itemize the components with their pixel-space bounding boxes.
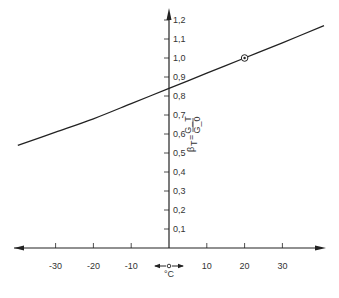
y-tick-label: 0,2 (173, 205, 186, 215)
y-axis-label: βT=G_TG_0 (183, 116, 202, 152)
y-tick-label: 0,3 (173, 186, 186, 196)
y-label-denominator: G_0 (192, 116, 202, 133)
y-axis-label-group: βT=G_TG_0 (183, 116, 202, 152)
unit-arrow-left-icon (154, 264, 160, 269)
x-tick-label: -30 (49, 261, 62, 271)
x-axis-left-arrow-icon (14, 246, 24, 251)
y-tick-label: 1,0 (173, 53, 186, 63)
y-tick-label: 0,1 (173, 224, 186, 234)
y-label-equals: = (186, 135, 196, 140)
x-tick-label: 20 (240, 261, 250, 271)
reference-point-dot-icon (243, 57, 245, 59)
y-axis-arrow-icon (167, 8, 172, 20)
y-label-beta: β (186, 147, 196, 152)
x-tick-label: 30 (277, 261, 287, 271)
y-tick-label: 0,8 (173, 91, 186, 101)
x-axis-right-arrow-icon (315, 246, 326, 251)
unit-arrow-right-icon (178, 264, 184, 269)
y-tick-label: 0,9 (173, 72, 186, 82)
beta-curve (18, 26, 324, 146)
y-tick-label: 0,5 (173, 148, 186, 158)
y-tick-label: 0,4 (173, 167, 186, 177)
x-axis-unit-label: °C (164, 269, 175, 279)
x-tick-label: -20 (87, 261, 100, 271)
annotations (241, 55, 248, 62)
y-tick-label: 1,1 (173, 34, 186, 44)
chart: -30-20-10102030 0,10,20,30,40,50,60,70,8… (0, 0, 339, 298)
unit-origin-circle-icon (167, 264, 171, 268)
y-tick-label: 1,2 (173, 15, 186, 25)
data-series (18, 26, 324, 146)
x-tick-label: -10 (125, 261, 138, 271)
x-tick-label: 10 (202, 261, 212, 271)
x-axis-unit: °C (154, 264, 184, 279)
